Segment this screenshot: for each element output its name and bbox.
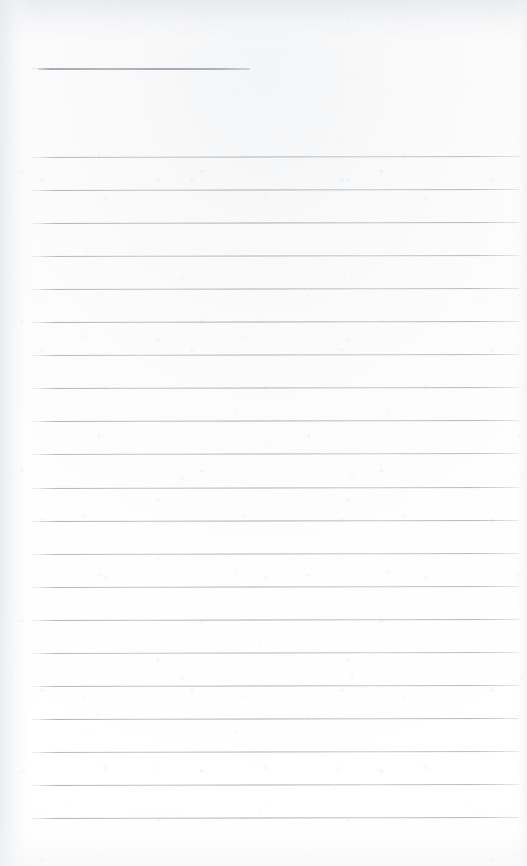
ruled-lines-layer	[0, 0, 527, 866]
ruled-line	[38, 255, 519, 257]
ruled-line	[38, 387, 519, 389]
ruled-line	[38, 586, 519, 588]
ruled-line	[38, 751, 519, 753]
ruled-line	[38, 652, 519, 654]
ruled-line	[38, 420, 519, 422]
header-rule	[38, 68, 250, 70]
ruled-line	[38, 619, 519, 621]
ruled-line	[38, 288, 519, 290]
ruled-line	[38, 718, 519, 720]
ruled-line	[38, 354, 519, 356]
ruled-line	[38, 685, 519, 687]
ruled-line	[38, 222, 519, 224]
ruled-line	[38, 189, 519, 191]
ruled-line	[38, 156, 519, 158]
ruled-line	[38, 784, 519, 786]
ruled-line	[38, 520, 519, 522]
ruled-line	[38, 453, 519, 455]
ruled-line	[38, 553, 519, 555]
scanned-page	[0, 0, 527, 866]
ruled-line	[38, 486, 519, 488]
ruled-line	[38, 817, 519, 819]
ruled-line	[38, 321, 519, 323]
